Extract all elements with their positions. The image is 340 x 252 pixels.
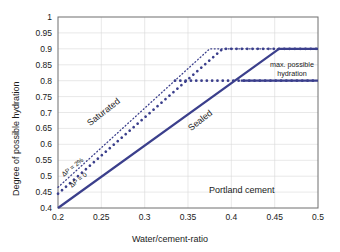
x-tick-03: 0.3 (128, 212, 162, 222)
y-tick-065: 0.65 (20, 123, 52, 133)
chart-figure: Degree of possible hydration Water/cemen… (0, 0, 340, 252)
y-tick-09: 0.9 (20, 44, 52, 54)
max-hydration-annotation: max. possible hydration (264, 60, 320, 78)
y-tick-1: 1 (20, 12, 52, 22)
y-tick-095: 0.95 (20, 28, 52, 38)
material-annotation: Portland cement (209, 185, 275, 195)
y-tick-085: 0.85 (20, 60, 52, 70)
x-tick-045: 0.45 (258, 212, 292, 222)
x-tick-025: 0.25 (84, 212, 118, 222)
y-tick-045: 0.45 (20, 187, 52, 197)
y-tick-055: 0.55 (20, 155, 52, 165)
x-tick-035: 0.35 (171, 212, 205, 222)
x-tick-05: 0.5 (301, 212, 335, 222)
x-axis-label: Water/cement-ratio (0, 234, 340, 244)
x-tick-04: 0.4 (214, 212, 248, 222)
x-tick-02: 0.2 (41, 212, 75, 222)
y-tick-08: 0.8 (20, 76, 52, 86)
y-tick-075: 0.75 (20, 92, 52, 102)
y-tick-06: 0.6 (20, 139, 52, 149)
y-tick-05: 0.5 (20, 171, 52, 181)
y-tick-07: 0.7 (20, 108, 52, 118)
